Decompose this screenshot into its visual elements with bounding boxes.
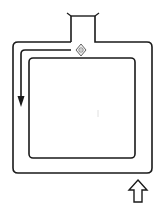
neck-flare-right (95, 13, 99, 16)
inner-island (29, 58, 135, 158)
outer-track (13, 16, 152, 173)
entry-up-arrow-icon (129, 180, 147, 202)
flow-arrowhead-icon (18, 96, 25, 107)
loop-diagram (0, 0, 166, 211)
junction-marker-icon (76, 44, 86, 56)
neck-flare-left (67, 13, 71, 16)
